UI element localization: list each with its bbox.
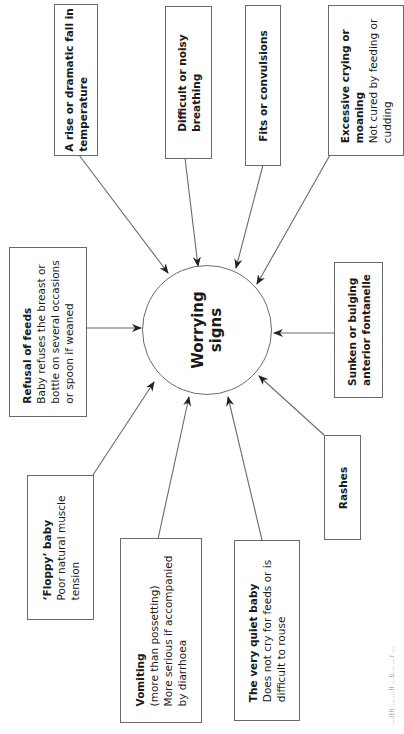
node-breathing: Difficult or noisy breathing (165, 6, 212, 159)
arrow-temperature (79, 155, 168, 273)
arrow-vomiting (158, 397, 189, 539)
node-desc-cont: tension (68, 495, 82, 600)
node-fontanelle: Sunken or bulging anterior fontanelle (334, 262, 383, 398)
arrow-fits (236, 165, 263, 268)
node-title: Refusal of feeds (20, 260, 34, 403)
node-desc-cont: cudding (380, 18, 394, 143)
node-title: Difficult or noisy (175, 34, 189, 131)
node-title-cont: breathing (189, 34, 203, 131)
node-title-cont: moaning (352, 18, 366, 143)
node-desc: Not cured by feeding or (366, 18, 380, 143)
node-floppy-baby: ‘Floppy’ baby Poor natural muscle tensio… (27, 475, 94, 620)
node-desc-cont: difficult to rouse (274, 559, 288, 701)
arrow-rashes (259, 376, 324, 435)
node-title: Sunken or bulging (345, 274, 359, 386)
arrow-breathing (185, 158, 198, 266)
center-label-line1: Worrying (189, 291, 207, 368)
arrow-crying (257, 155, 330, 284)
node-title: Fits or convulsions (256, 30, 270, 141)
arrow-quiet (228, 397, 262, 540)
node-title: Rashes (336, 466, 350, 508)
node-title: The very quiet baby (246, 559, 260, 701)
node-refusal-of-feeds: Refusal of feeds Baby refuses the breast… (9, 247, 87, 417)
node-title: Vomiting (133, 555, 147, 706)
node-crying: Excessive crying or moaning Not cured by… (328, 5, 404, 156)
node-desc: Baby refuses the breast or (34, 260, 48, 403)
node-desc-cont: bottle on several occasions (48, 260, 62, 403)
node-desc-cont2: by diarrhoea (175, 555, 189, 706)
node-title: Excessive crying or (338, 18, 352, 143)
center-label-line2: signs (207, 291, 225, 368)
node-rashes: Rashes (324, 435, 361, 540)
node-title-cont: temperature (76, 8, 90, 152)
node-desc: (more than possetting) (147, 555, 161, 706)
node-vomiting: Vomiting (more than possetting) More ser… (120, 538, 202, 723)
node-title: ‘Floppy’ baby (40, 495, 54, 600)
caption-text: ...ith ... ...ll ...b... ...r ... (388, 646, 396, 724)
node-desc: Poor natural muscle (54, 495, 68, 600)
node-desc: Does not cry for feeds or is (260, 559, 274, 701)
node-desc-cont: More serious if accompanied (161, 555, 175, 706)
node-title-cont: anterior fontanelle (359, 274, 373, 386)
node-temperature: A rise or dramatic fall in temperature (54, 4, 98, 156)
node-quiet-baby: The very quiet baby Does not cry for fee… (234, 540, 300, 721)
node-desc-cont2: or spoon if weaned (62, 260, 76, 403)
node-fits: Fits or convulsions (245, 5, 281, 166)
node-title: A rise or dramatic fall in (62, 8, 76, 152)
center-node-worrying-signs: Worrying signs (142, 265, 272, 395)
figure-caption-fragment: ...ith ... ...ll ...b... ...r ... (382, 640, 402, 730)
arrow-floppy (93, 382, 154, 475)
